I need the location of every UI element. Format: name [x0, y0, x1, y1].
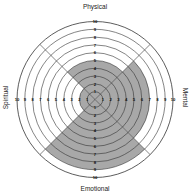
tick-label: 10	[93, 175, 98, 180]
axis-label-emotional: Emotional	[0, 185, 190, 192]
tick-label: 5	[55, 97, 58, 102]
tick-label: 4	[63, 97, 66, 102]
tick-label: 7	[148, 97, 151, 102]
tick-label: 10	[171, 97, 176, 102]
axis-label-physical: Physical	[0, 3, 190, 10]
tick-label: 10	[93, 19, 98, 24]
tick-label: 3	[70, 97, 73, 102]
tick-label: 7	[39, 97, 42, 102]
tick-label: 9	[24, 97, 27, 102]
tick-label: 6	[47, 97, 50, 102]
axis-label-mental: Mental	[182, 81, 189, 115]
tick-label: 8	[31, 97, 34, 102]
tick-label: 8	[156, 97, 159, 102]
tick-label: 9	[164, 97, 167, 102]
axis-label-spiritual: Spiritual	[2, 81, 9, 115]
radial-chart: 1234567891012345678910123456789101234567…	[0, 0, 190, 196]
tick-label: 10	[15, 97, 20, 102]
